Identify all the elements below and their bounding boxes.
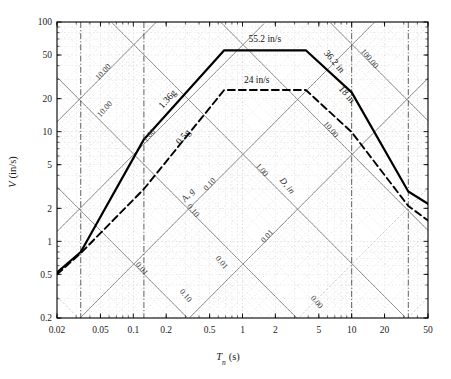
x-tick-label: 0.5: [204, 325, 216, 335]
x-tick-label: 50: [423, 325, 433, 335]
y-tick-label: 100: [38, 17, 53, 27]
x-tick-label: 0.05: [92, 325, 109, 335]
x-tick-label: 0.2: [160, 325, 172, 335]
x-tick-label: 0.02: [49, 325, 66, 335]
svg-text:55.2 in/s: 55.2 in/s: [248, 34, 281, 44]
y-tick-label: 2: [47, 204, 52, 214]
tripartite-spectrum-plot: 0.020.050.10.20.51251020501005020105210.…: [0, 0, 451, 379]
x-tick-label: 10: [347, 325, 357, 335]
figure-background: [0, 0, 451, 379]
y-tick-label: 0.2: [40, 313, 52, 323]
x-tick-label: 1: [240, 325, 245, 335]
y-tick-label: 10: [43, 127, 53, 137]
svg-text:24 in/s: 24 in/s: [244, 75, 270, 85]
y-tick-label: 1: [47, 237, 52, 247]
x-tick-label: 20: [380, 325, 390, 335]
x-tick-label: 0.1: [127, 325, 139, 335]
y-tick-label: 5: [47, 160, 52, 170]
y-tick-label: 50: [43, 50, 53, 60]
y-axis-title: V(in/s): [7, 156, 19, 188]
spectrum-figure: 0.020.050.10.20.51251020501005020105210.…: [0, 0, 451, 379]
y-tick-label: 20: [43, 94, 53, 104]
x-tick-label: 5: [316, 325, 321, 335]
svg-text:V(in/s): V(in/s): [7, 156, 19, 188]
y-tick-label: 0.5: [40, 270, 52, 280]
x-tick-label: 2: [273, 325, 278, 335]
